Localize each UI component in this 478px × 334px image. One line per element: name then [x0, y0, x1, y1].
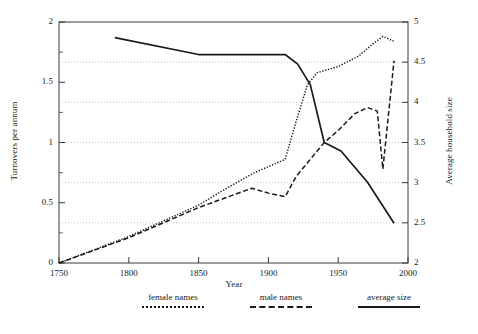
legend-item-female-names[interactable]: female names: [118, 292, 228, 311]
legend-item-average-size[interactable]: average size: [334, 292, 444, 311]
legend-label: female names: [118, 292, 228, 302]
series-line-male-names: [59, 61, 394, 263]
x-axis-label: Year: [59, 279, 409, 289]
y-tick-label-right: 2.5: [414, 217, 454, 227]
legend-swatch-dotted: [142, 306, 204, 311]
y-tick-label-left: 0.5: [13, 197, 53, 207]
gridlines: [59, 62, 408, 223]
legend-label: average size: [334, 292, 444, 302]
series-line-average-size: [115, 38, 394, 224]
y-tick-label-right: 3: [414, 177, 454, 187]
x-tick-label: 2000: [383, 268, 433, 278]
data-series-layer: [59, 36, 394, 263]
y-tick-label-left: 1: [13, 137, 53, 147]
legend-swatch-dashed: [250, 306, 312, 311]
y-tick-label-left: 1.5: [13, 76, 53, 86]
x-tick-label: 1950: [313, 268, 363, 278]
x-tick-label: 1750: [34, 268, 84, 278]
chart-figure: Turnovers per annum Average household si…: [0, 0, 478, 334]
y-tick-label-right: 5: [414, 16, 454, 26]
y-tick-label-right: 2: [414, 257, 454, 267]
y-tick-label-right: 3.5: [414, 137, 454, 147]
x-tick-label: 1800: [104, 268, 154, 278]
y-tick-label-left: 0: [13, 257, 53, 267]
legend-swatch-solid: [358, 306, 420, 311]
y-tick-label-left: 2: [13, 16, 53, 26]
x-tick-label: 1900: [243, 268, 293, 278]
legend-item-male-names[interactable]: male names: [226, 292, 336, 311]
x-tick-label: 1850: [174, 268, 224, 278]
y-tick-label-right: 4.5: [414, 56, 454, 66]
legend-label: male names: [226, 292, 336, 302]
chart-legend: female namesmale namesaverage size: [0, 292, 478, 328]
series-line-female-names: [59, 36, 394, 263]
y-tick-label-right: 4: [414, 96, 454, 106]
